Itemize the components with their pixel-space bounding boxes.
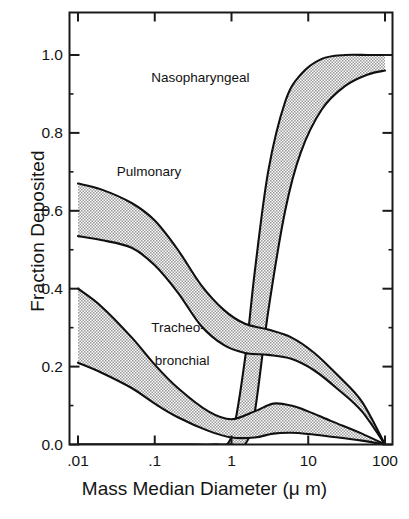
- region-label-nasopharyngeal: Nasopharyngeal: [151, 70, 249, 85]
- x-tick-label: 1: [227, 452, 236, 470]
- band-pulmonary: [78, 184, 385, 445]
- x-tick-label: .1: [148, 452, 161, 470]
- x-tick-label: 100: [372, 452, 398, 470]
- region-label-pulmonary: Pulmonary: [117, 164, 182, 179]
- x-tick-label: .01: [67, 452, 89, 470]
- x-tick-label: 10: [300, 452, 317, 470]
- data-bands: [78, 55, 385, 447]
- region-label-tracheo: Tracheo-: [151, 320, 205, 335]
- region-label-bronchial: bronchial: [155, 353, 210, 368]
- chart-figure: Fraction Deposited Mass Median Diameter …: [0, 0, 409, 519]
- band-tracheobronchial: [78, 289, 385, 445]
